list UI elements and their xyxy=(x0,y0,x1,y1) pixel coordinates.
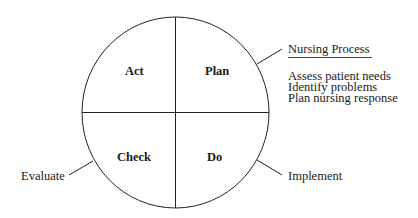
evaluate-connector xyxy=(69,161,93,175)
nursing-process-title: Nursing Process xyxy=(288,43,370,55)
implement-label: Implement xyxy=(288,171,342,182)
plan-connector xyxy=(257,49,282,64)
plan-step-respond: Plan nursing response xyxy=(288,93,398,104)
quadrant-do-label: Do xyxy=(207,151,222,163)
quadrant-check-label: Check xyxy=(117,151,151,163)
implement-connector xyxy=(257,160,282,175)
quadrant-act-label: Act xyxy=(125,65,144,77)
nursing-process-underline xyxy=(288,57,372,58)
pdca-circle-diagram xyxy=(0,0,418,218)
quadrant-plan-label: Plan xyxy=(205,65,229,77)
evaluate-label: Evaluate xyxy=(21,171,65,182)
